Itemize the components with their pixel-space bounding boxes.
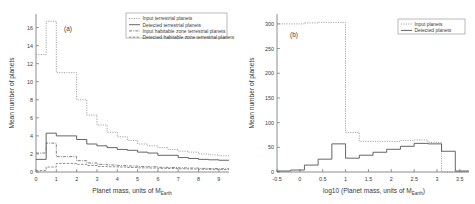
- panel-a-yaxis-title: Mean number of planets: [8, 57, 16, 129]
- y-tick-label: 14: [27, 43, 33, 49]
- panel-a-plot: 0123456789 0246810121416 (a) Planet mass…: [0, 0, 237, 204]
- x-tick-label: -0.5: [272, 176, 281, 182]
- x-tick-label: 9: [217, 176, 220, 182]
- legend-label-0: Input planets: [415, 22, 444, 27]
- legend-label-1: Detected terrestrial planets: [143, 23, 202, 28]
- panel-a-series-group: [36, 21, 229, 170]
- panel-b-xaxis-title: log10 (Planet mass, units of MEarth): [323, 187, 425, 196]
- y-tick-labels: 0246810121416: [27, 25, 33, 175]
- x-tick-label: 1: [55, 176, 58, 182]
- panel-b-series-group: [277, 22, 469, 172]
- panel-b-plot: -0.500.511.522.533.5 050100150200250300 …: [238, 0, 475, 204]
- y-tick-label: 250: [265, 46, 274, 52]
- x-tick-label: 1: [344, 176, 347, 182]
- y-tick-label: 2: [30, 151, 33, 157]
- y-tick-label: 0: [30, 169, 33, 175]
- panel-b: -0.500.511.522.533.5 050100150200250300 …: [238, 0, 475, 204]
- y-tick-marks: [36, 28, 39, 172]
- xaxis-title-main: log10 (Planet mass, units of M: [323, 187, 412, 195]
- series-line-0: [277, 22, 469, 172]
- y-tick-label: 100: [265, 120, 274, 126]
- y-tick-label: 8: [30, 97, 33, 103]
- y-tick-label: 50: [268, 144, 274, 150]
- x-tick-label: 3: [95, 176, 98, 182]
- y-tick-label: 16: [27, 25, 33, 31]
- legend-label-2: Input habitable zone terrestrial planets: [143, 29, 226, 34]
- panel-a: 0123456789 0246810121416 (a) Planet mass…: [0, 0, 237, 204]
- x-tick-label: 5: [136, 176, 139, 182]
- series-line-1: [277, 143, 469, 171]
- figure-container: 0123456789 0246810121416 (a) Planet mass…: [0, 0, 475, 204]
- panel-b-tag: (b): [290, 31, 298, 39]
- y-tick-label: 0: [271, 169, 274, 175]
- panel-b-yaxis-title: Mean number of planets: [248, 57, 256, 129]
- x-tick-label: 3.5: [456, 176, 464, 182]
- y-tick-label: 4: [30, 133, 33, 139]
- x-tick-label: 0: [35, 176, 38, 182]
- legend-label-1: Detected planets: [415, 28, 452, 33]
- x-tick-labels: 0123456789: [35, 176, 221, 182]
- x-tick-marks: [36, 169, 219, 172]
- series-line-2: [36, 143, 229, 169]
- y-tick-label: 12: [27, 61, 33, 67]
- xaxis-title-main: Planet mass, units of M: [92, 187, 161, 194]
- x-tick-label: 4: [116, 176, 119, 182]
- panel-a-tag: (a): [64, 25, 72, 33]
- x-tick-label: 0.5: [319, 176, 327, 182]
- series-line-1: [36, 133, 229, 160]
- x-tick-labels: -0.500.511.522.533.5: [272, 176, 463, 182]
- panel-b-legend: Input planetsDetected planets: [398, 19, 465, 34]
- legend-label-0: Input terrestrial planets: [143, 16, 193, 21]
- y-tick-label: 300: [265, 21, 274, 27]
- panel-a-xaxis-title: Planet mass, units of MEarth: [92, 187, 172, 196]
- x-tick-label: 3: [436, 176, 439, 182]
- x-tick-label: 1.5: [365, 176, 373, 182]
- panel-a-legend: Input terrestrial planetsDetected terres…: [126, 13, 235, 40]
- panel-b-axes: [277, 14, 469, 172]
- y-tick-labels: 050100150200250300: [265, 21, 274, 175]
- x-tick-label: 2: [390, 176, 393, 182]
- x-tick-label: 6: [156, 176, 159, 182]
- axis-lines: [277, 14, 469, 172]
- xaxis-title-sub: Earth: [412, 191, 423, 196]
- legend-label-3: Detected habitable zone terrestrial plan…: [143, 35, 235, 40]
- x-tick-label: 2.5: [410, 176, 418, 182]
- xaxis-title-sub: Earth: [161, 191, 172, 196]
- y-tick-label: 150: [265, 95, 274, 101]
- x-tick-label: 7: [177, 176, 180, 182]
- series-line-3: [36, 163, 229, 170]
- x-tick-label: 0: [298, 176, 301, 182]
- y-tick-marks: [277, 24, 280, 172]
- x-tick-label: 8: [197, 176, 200, 182]
- y-tick-label: 200: [265, 70, 274, 76]
- x-tick-label: 2: [75, 176, 78, 182]
- y-tick-label: 10: [27, 79, 33, 85]
- y-tick-label: 6: [30, 115, 33, 121]
- xaxis-title-tail: ): [423, 187, 425, 195]
